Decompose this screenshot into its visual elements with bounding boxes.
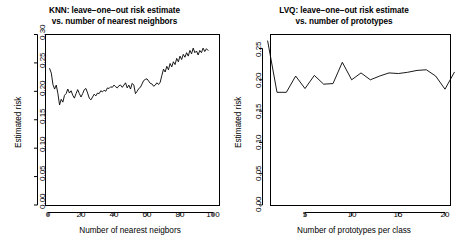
knn-xtick-100: 100 xyxy=(201,210,225,219)
knn-ytick-0.30: 0.30 xyxy=(38,24,47,40)
knn-y-axis-title: Estimated risk xyxy=(14,97,23,148)
knn-ytick-0.20: 0.20 xyxy=(38,80,47,96)
lvq-ytick-0.20: 0.20 xyxy=(254,72,263,88)
knn-ytick-0.15: 0.15 xyxy=(38,108,47,124)
knn-x-axis-title: Number of nearest neigbors xyxy=(35,226,225,235)
knn-xtick-60: 60 xyxy=(135,210,159,219)
lvq-xtick-20: 20 xyxy=(433,210,457,219)
knn-ytick-0.00: 0.00 xyxy=(38,193,47,209)
knn-xtick-40: 40 xyxy=(102,210,126,219)
knn-xtick-20: 20 xyxy=(69,210,93,219)
knn-xtick-0: 0 xyxy=(36,210,60,219)
lvq-y-axis-title: Estimated risk xyxy=(234,97,243,148)
svg-lvq-frame xyxy=(271,35,451,206)
figure-canvas: KNN: leave−one−out risk estimate vs. num… xyxy=(0,0,459,251)
knn-ytick-0.25: 0.25 xyxy=(38,52,47,68)
lvq-ytick-0.05: 0.05 xyxy=(254,165,263,181)
panel-lvq: LVQ: leave−one−out risk estimate vs. num… xyxy=(229,0,459,251)
lvq-xtick-5: 5 xyxy=(293,210,317,219)
lvq-x-axis-title: Number of prototypes per class xyxy=(254,226,454,235)
knn-ytick-0.10: 0.10 xyxy=(38,136,47,152)
lvq-ytick-0.10: 0.10 xyxy=(254,134,263,150)
lvq-ytick-0.00: 0.00 xyxy=(254,196,263,212)
svg-lvq-data-line xyxy=(268,41,455,92)
svg-knn-frame xyxy=(46,35,220,206)
lvq-xtick-15: 15 xyxy=(386,210,410,219)
panel-knn: KNN: leave−one−out risk estimate vs. num… xyxy=(0,0,229,251)
svg-knn-data-line xyxy=(50,48,208,105)
lvq-ytick-0.25: 0.25 xyxy=(254,41,263,57)
lvq-xtick-10: 10 xyxy=(340,210,364,219)
knn-xtick-80: 80 xyxy=(168,210,192,219)
knn-ytick-0.05: 0.05 xyxy=(38,165,47,181)
lvq-ytick-0.15: 0.15 xyxy=(254,103,263,119)
